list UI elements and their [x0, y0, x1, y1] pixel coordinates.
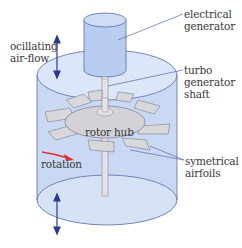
label-line: ocillating	[10, 40, 58, 52]
turbine-illustration	[0, 0, 242, 248]
label-line: electrical	[184, 8, 235, 20]
label-rotor-hub: rotor hub	[85, 126, 134, 138]
label-oscillating-airflow: ocillating air-flow	[10, 40, 58, 64]
label-line: air-flow	[10, 52, 58, 64]
label-line: generator	[184, 20, 235, 32]
label-line: turbo	[184, 64, 235, 76]
label-line: airfoils	[185, 167, 239, 179]
diagram-canvas: electrical generator ocillating air-flow…	[0, 0, 242, 248]
label-line: shaft	[184, 88, 235, 100]
label-turbo-generator-shaft: turbo generator shaft	[184, 64, 235, 100]
label-line: generator	[184, 76, 235, 88]
label-rotation: rotation	[41, 158, 82, 170]
label-line: symetrical	[185, 155, 239, 167]
electrical-generator-body	[84, 13, 126, 77]
label-electrical-generator: electrical generator	[184, 8, 235, 32]
label-symmetrical-airfoils: symetrical airfoils	[185, 155, 239, 179]
